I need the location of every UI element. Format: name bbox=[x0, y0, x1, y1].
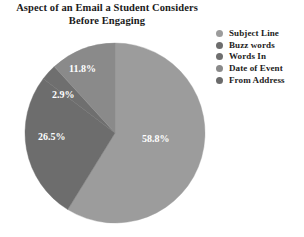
legend-item[interactable]: Words In bbox=[216, 51, 302, 63]
legend-item-label: From Address bbox=[229, 76, 285, 85]
pie-chart-figure: Aspect of an Email a Student Considers B… bbox=[0, 0, 304, 237]
legend-item-label: Buzz words bbox=[229, 41, 275, 50]
legend-item-label: Subject Line bbox=[229, 29, 279, 38]
pie-slice-value-label: 11.8% bbox=[69, 63, 96, 74]
legend-marker-icon bbox=[216, 30, 223, 37]
pie-chart-svg: 58.8%26.5%2.9%11.8% bbox=[24, 42, 206, 224]
page-title: Aspect of an Email a Student Considers B… bbox=[6, 2, 208, 27]
legend-item-label: Date of Event bbox=[229, 64, 283, 73]
legend-item[interactable]: From Address bbox=[216, 74, 302, 86]
pie-slice-value-label: 26.5% bbox=[38, 131, 66, 142]
legend-item[interactable]: Date of Event bbox=[216, 63, 302, 75]
legend-marker-icon bbox=[216, 77, 223, 84]
legend-item-label: Words In bbox=[229, 52, 266, 61]
chart-title-line-1: Aspect of an Email a Student Considers bbox=[6, 2, 208, 15]
pie-slice-value-label: 58.8% bbox=[142, 133, 170, 144]
legend-marker-icon bbox=[216, 65, 223, 72]
chart-title-line-2: Before Engaging bbox=[6, 15, 208, 28]
legend-marker-icon bbox=[216, 42, 223, 49]
pie-chart: 58.8%26.5%2.9%11.8% bbox=[24, 42, 206, 224]
pie-slice-value-label: 2.9% bbox=[52, 89, 75, 100]
legend-marker-icon bbox=[216, 53, 223, 60]
legend-item[interactable]: Buzz words bbox=[216, 40, 302, 52]
legend-item[interactable]: Subject Line bbox=[216, 28, 302, 40]
legend: Subject LineBuzz wordsWords InDate of Ev… bbox=[216, 28, 302, 86]
